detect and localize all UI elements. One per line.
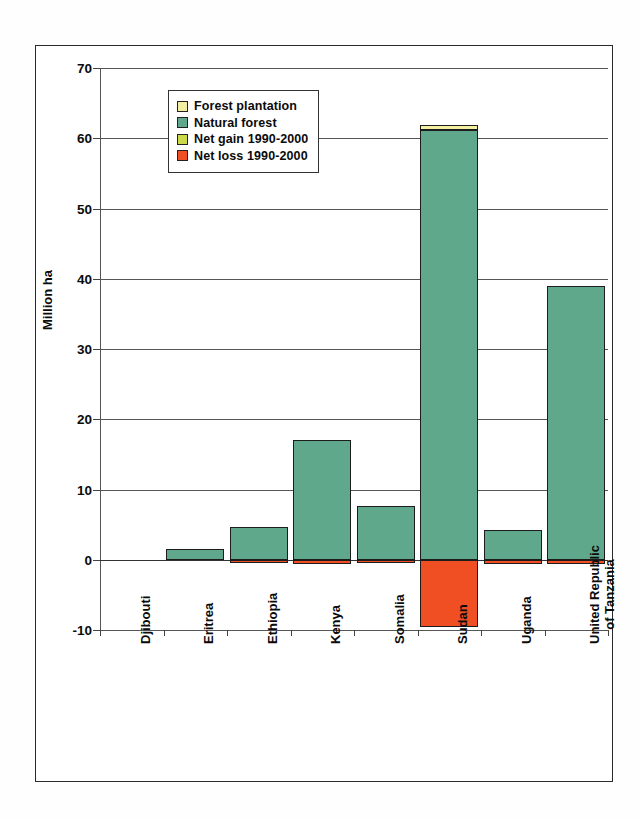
x-tick-label-line: United Republic [587,545,602,644]
y-tick-50 [93,209,100,210]
y-tick-30 [93,349,100,350]
x-tick-label-line: Sudan [455,604,470,644]
x-tick-mark [418,630,419,636]
x-tick-label: Sudan [455,604,470,644]
legend-swatch-icon [177,134,188,145]
x-tick-mark [164,630,165,636]
x-tick-labels-group: DjiboutiEritreaEthiopiaKenyaSomaliaSudan… [100,642,608,772]
x-tick-label: Kenya [328,605,343,644]
y-tick-40 [93,279,100,280]
x-tick-mark [545,630,546,636]
x-tick-mark [481,630,482,636]
y-tick-label: 30 [52,342,92,357]
legend-item-label: Net loss 1990-2000 [194,149,308,163]
y-tick-label: 60 [52,131,92,146]
legend-item[interactable]: Net gain 1990-2000 [177,132,308,147]
y-tick-label: 70 [52,61,92,76]
y-tick-label: 0 [52,552,92,567]
x-tick-label-line: Somalia [392,594,407,644]
x-tick-mark [291,630,292,636]
legend-item[interactable]: Natural forest [177,115,308,130]
legend-item-label: Natural forest [194,116,277,130]
x-tick-label-line: Djibouti [138,596,153,644]
y-tick-label: 10 [52,482,92,497]
y-tick-10 [93,490,100,491]
y-tick-label: 20 [52,412,92,427]
figure-canvas: Million ha -10010203040506070 DjiboutiEr… [0,0,641,819]
chart-legend: Forest plantationNatural forestNet gain … [168,90,319,173]
legend-swatch-icon [177,117,188,128]
x-tick-mark [100,630,101,636]
y-tick-label: 40 [52,271,92,286]
legend-swatch-icon [177,150,188,161]
legend-item-label: Net gain 1990-2000 [194,132,308,146]
x-tick-label-line: Ethiopia [265,593,280,644]
y-tick-label: -10 [52,623,92,638]
legend-item[interactable]: Net loss 1990-2000 [177,148,308,163]
x-tick-label: Somalia [392,594,407,644]
x-tick-mark [354,630,355,636]
y-tick--10 [93,630,100,631]
x-tick-label: Eritrea [201,603,216,644]
y-tick-label: 50 [52,201,92,216]
x-tick-label: United Republicof Tanzania [588,545,617,644]
x-tick-label: Ethiopia [265,593,280,644]
y-tick-70 [93,68,100,69]
y-tick-0 [93,560,100,561]
legend-item[interactable]: Forest plantation [177,99,308,114]
x-tick-label-line: Kenya [328,605,343,644]
x-tick-mark [227,630,228,636]
x-tick-label-line: of Tanzania [602,559,617,630]
x-tick-label-line: Eritrea [201,603,216,644]
y-tick-60 [93,138,100,139]
legend-swatch-icon [177,101,188,112]
x-tick-label: Djibouti [138,596,153,644]
legend-item-label: Forest plantation [194,99,297,113]
y-tick-20 [93,419,100,420]
x-tick-label-line: Uganda [519,596,534,644]
x-tick-label: Uganda [519,596,534,644]
